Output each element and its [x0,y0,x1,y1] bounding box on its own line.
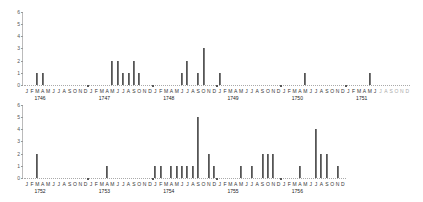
bar-1755-jul [251,166,253,178]
chart-bottom-1752-1756: 0123456JFMAMJJASOND1752JFMAMJJASOND1753J… [0,95,423,202]
bar-1756-jul [315,129,317,178]
year-boundary-marker [87,85,89,87]
y-tick-label: 2 [8,151,20,157]
x-month-label: D [340,181,346,187]
y-tick-label: 1 [8,70,20,76]
y-tick-mark [21,141,23,142]
bar-1756-apr [299,166,301,178]
bar-1747-aug [128,73,130,85]
bar-1754-apr [170,166,172,178]
bar-1749-jan [219,73,221,85]
y-tick-label: 6 [8,102,20,108]
y-tick-label: 3 [8,45,20,51]
y-tick-label: 5 [8,114,20,120]
y-tick-label: 3 [8,138,20,144]
bar-1754-nov [208,154,210,178]
bar-1753-apr [106,166,108,178]
x-year-label: 1753 [89,188,119,194]
year-boundary-marker [345,85,347,87]
year-boundary-marker [280,178,282,180]
bar-1755-nov [272,154,274,178]
bar-1756-aug [320,154,322,178]
bar-1755-sep [262,154,264,178]
y-tick-mark [21,12,23,13]
bar-1746-mar [36,73,38,85]
year-boundary-marker [216,85,218,87]
y-tick-label: 4 [8,33,20,39]
y-tick-mark [21,85,23,86]
y-tick-label: 0 [8,82,20,88]
y-tick-mark [21,61,23,62]
bar-1747-may [111,61,113,85]
bar-1754-jun [181,166,183,178]
bar-1750-may [304,73,306,85]
year-boundary-marker [87,178,89,180]
bar-1751-may [369,73,371,85]
bar-1754-jan [154,166,156,178]
bar-1754-feb [160,166,162,178]
x-year-label: 1756 [282,188,312,194]
bar-1754-dec [213,166,215,178]
y-tick-label: 6 [8,9,20,15]
y-tick-label: 2 [8,58,20,64]
chart-top-1746-1751: 0123456JFMAMJJASOND1746JFMAMJJASOND1747J… [0,0,423,100]
x-year-label: 1755 [218,188,248,194]
bar-1752-mar [36,154,38,178]
bar-1754-may [176,166,178,178]
y-tick-label: 4 [8,126,20,132]
year-boundary-marker [152,85,154,87]
x-axis-baseline [24,178,346,179]
y-tick-mark [21,24,23,25]
bar-1747-oct [138,73,140,85]
bar-1755-oct [267,154,269,178]
bar-1748-jul [186,61,188,85]
y-tick-mark [21,48,23,49]
bar-1747-jul [122,73,124,85]
bar-1748-sep [197,73,199,85]
y-tick-mark [21,36,23,37]
y-tick-label: 0 [8,175,20,181]
x-month-label: D [404,88,410,94]
year-boundary-marker [280,85,282,87]
bar-1748-jun [181,73,183,85]
bar-1754-jul [186,166,188,178]
y-tick-mark [21,105,23,106]
bar-1747-sep [133,61,135,85]
year-boundary-marker [216,178,218,180]
y-tick-label: 1 [8,163,20,169]
bar-1746-apr [42,73,44,85]
bar-1748-oct [203,48,205,85]
y-tick-mark [21,117,23,118]
bar-1747-jun [117,61,119,85]
bar-1754-aug [192,166,194,178]
bar-1755-may [240,166,242,178]
y-tick-mark [21,166,23,167]
y-tick-mark [21,129,23,130]
bar-1756-nov [337,166,339,178]
y-tick-label: 5 [8,21,20,27]
y-tick-mark [21,154,23,155]
y-tick-mark [21,178,23,179]
year-boundary-marker [152,178,154,180]
bar-1756-sep [326,154,328,178]
y-tick-mark [21,73,23,74]
bar-1754-sep [197,117,199,178]
x-year-label: 1754 [154,188,184,194]
x-year-label: 1752 [25,188,55,194]
